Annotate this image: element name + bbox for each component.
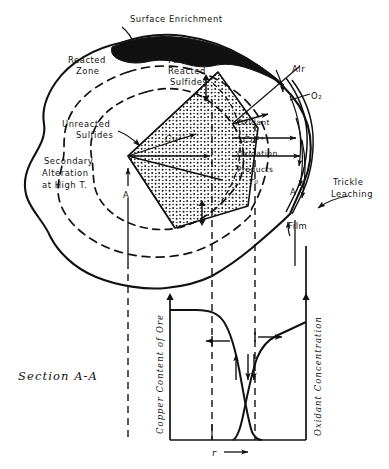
label-trickle-line1: Trickle	[332, 177, 363, 187]
label-cu2-outer: Cu²⁺	[243, 135, 265, 145]
label-oxidation: Oxidation	[237, 149, 278, 158]
xaxis-label: r	[212, 448, 217, 458]
label-air: Air	[292, 64, 305, 74]
label-partially-line2: Reacted	[168, 66, 206, 76]
section-caption: Section A-A	[18, 369, 98, 383]
label-partially-line3: Sulfides	[170, 77, 207, 87]
label-reacted-zone-line2: Zone	[76, 66, 100, 76]
schematic-diagram: Surface Enrichment Reacted Zone Partiall…	[0, 0, 389, 469]
label-oxidant: Oxidant	[237, 118, 270, 127]
chart-frame	[166, 246, 309, 440]
label-film: Film	[288, 221, 307, 231]
label-o2: O₂	[311, 91, 322, 101]
label-secondary-line1: Secondary	[44, 156, 93, 166]
label-trickle-line2: Leaching	[331, 189, 373, 199]
label-secondary-line2: Alteration	[42, 168, 89, 178]
label-unreacted-line1: Unreacted	[62, 119, 110, 129]
label-reacted-zone-line1: Reacted	[68, 55, 106, 65]
figure-root: Surface Enrichment Reacted Zone Partiall…	[0, 0, 389, 469]
yaxis-label-right: Oxidant Concentration	[313, 316, 323, 436]
marker-a-right: A	[290, 187, 296, 197]
label-cu2-inner: Cu²⁺	[165, 134, 187, 144]
yaxis-label-left: Copper Content of Ore	[155, 314, 165, 434]
curve-oxidant-concentration	[233, 322, 306, 440]
section-marker-left: A	[123, 168, 129, 200]
label-secondary-line3: at High T.	[42, 180, 87, 190]
label-partially-line1: Partially	[168, 55, 207, 65]
label-unreacted-line2: Sulfides	[76, 130, 113, 140]
label-surface-enrichment: Surface Enrichment	[130, 14, 223, 24]
